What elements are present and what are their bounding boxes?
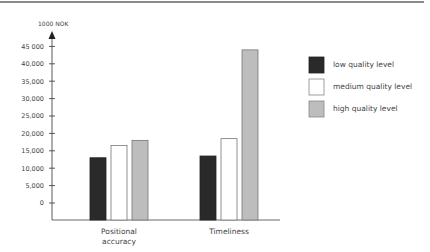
- category-label: accuracy: [102, 237, 136, 246]
- bar-chart: 1000 NOK05,00010,00015,00020,00025,00030…: [0, 0, 430, 252]
- y-axis-unit-label: 1000 NOK: [38, 20, 69, 27]
- y-tick-label: 45 000: [21, 43, 44, 51]
- bar-medium-quality-level-1: [221, 139, 237, 220]
- y-tick-label: 5,000: [25, 182, 44, 190]
- y-tick-label: 25,000: [21, 112, 44, 120]
- bar-high-quality-level-1: [242, 50, 258, 220]
- legend-swatch: [309, 79, 324, 95]
- bar-medium-quality-level-0: [111, 146, 127, 220]
- y-tick-label: 20,000: [21, 130, 44, 138]
- legend-swatch: [309, 101, 324, 117]
- y-axis-arrow-icon: [49, 31, 56, 39]
- legend-swatch: [309, 57, 324, 73]
- legend: low quality levelmedium quality levelhig…: [309, 57, 412, 117]
- category-label: Timeliness: [208, 227, 249, 236]
- y-tick-label: 15,000: [21, 147, 44, 155]
- axes: 1000 NOK05,00010,00015,00020,00025,00030…: [21, 20, 280, 220]
- y-tick-label: 35,000: [21, 78, 44, 86]
- category-labels: PositionalaccuracyTimeliness: [101, 227, 249, 246]
- bars: [90, 50, 258, 220]
- y-tick-label: 30,000: [21, 95, 44, 103]
- bar-high-quality-level-0: [132, 140, 148, 220]
- category-label: Positional: [101, 227, 137, 236]
- y-tick-label: 10,000: [21, 165, 44, 173]
- y-tick-label: 40,000: [21, 60, 44, 68]
- legend-label: low quality level: [333, 60, 394, 69]
- legend-label: medium quality level: [333, 82, 412, 91]
- legend-label: high quality level: [333, 104, 398, 113]
- y-tick-label: 0: [40, 199, 44, 207]
- bar-low-quality-level-1: [200, 156, 216, 220]
- bar-low-quality-level-0: [90, 158, 106, 220]
